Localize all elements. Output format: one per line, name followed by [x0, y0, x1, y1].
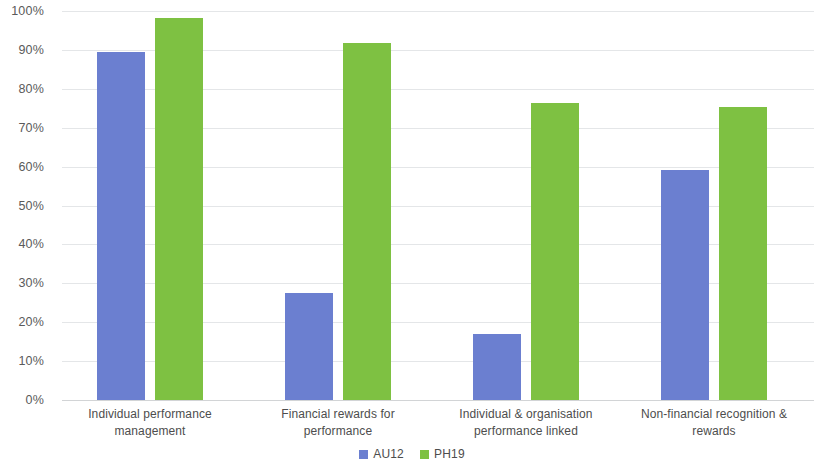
y-tick-label-10: 10% — [0, 354, 44, 368]
y-tick-label-0: 0% — [0, 393, 44, 407]
y-tick-label-60: 60% — [0, 160, 44, 174]
x-category-line: performance linked — [432, 423, 620, 440]
gridline-0 — [62, 400, 814, 401]
legend-item-ph19[interactable]: PH19 — [420, 447, 465, 461]
legend-label-au12: AU12 — [373, 447, 404, 461]
x-category-line: rewards — [620, 423, 808, 440]
bar-au12-1[interactable] — [285, 293, 333, 400]
y-tick-label-40: 40% — [0, 237, 44, 251]
x-category-label-2: Individual & organisationperformance lin… — [432, 406, 620, 440]
y-tick-label-50: 50% — [0, 199, 44, 213]
y-tick-label-20: 20% — [0, 315, 44, 329]
bar-chart: 100%90%80%70%60%50%40%30%20%10%0% Indivi… — [0, 0, 824, 466]
legend-label-ph19: PH19 — [434, 447, 465, 461]
legend: AU12 PH19 — [0, 447, 824, 461]
x-category-line: Individual & organisation — [432, 406, 620, 423]
bar-au12-2[interactable] — [473, 334, 521, 400]
y-tick-label-70: 70% — [0, 121, 44, 135]
bar-ph19-1[interactable] — [343, 43, 391, 400]
x-category-line: Financial rewards for — [244, 406, 432, 423]
bar-au12-3[interactable] — [661, 170, 709, 400]
y-tick-label-80: 80% — [0, 82, 44, 96]
x-category-line: performance — [244, 423, 432, 440]
legend-swatch-icon-ph19 — [420, 450, 429, 459]
bar-ph19-3[interactable] — [719, 107, 767, 400]
bar-ph19-2[interactable] — [531, 103, 579, 400]
legend-swatch-icon-au12 — [359, 450, 368, 459]
bar-au12-0[interactable] — [97, 52, 145, 400]
x-category-label-0: Individual performancemanagement — [56, 406, 244, 440]
x-category-label-3: Non-financial recognition &rewards — [620, 406, 808, 440]
legend-item-au12[interactable]: AU12 — [359, 447, 404, 461]
x-category-line: Non-financial recognition & — [620, 406, 808, 423]
bar-ph19-0[interactable] — [155, 18, 203, 400]
y-tick-label-30: 30% — [0, 276, 44, 290]
gridline-100 — [62, 11, 814, 12]
y-tick-label-100: 100% — [0, 4, 44, 18]
x-category-line: Individual performance — [56, 406, 244, 423]
x-category-line: management — [56, 423, 244, 440]
plot-area: 100%90%80%70%60%50%40%30%20%10%0% — [62, 11, 814, 400]
x-category-label-1: Financial rewards forperformance — [244, 406, 432, 440]
y-tick-label-90: 90% — [0, 43, 44, 57]
